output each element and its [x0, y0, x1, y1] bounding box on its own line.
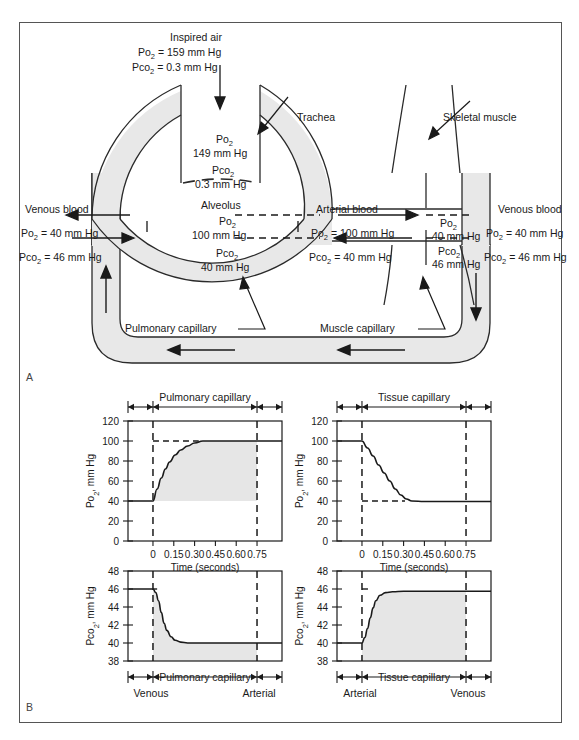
span-arrowhead: [337, 674, 343, 680]
span-annotation: Tissue capillaryArterialVenous: [337, 389, 491, 413]
chart-tissue-po2: 020406080100120Po2, mm Hg00.150.300.450.…: [294, 389, 491, 573]
span-arrowhead: [147, 674, 153, 680]
span-end-label-left: Arterial: [343, 389, 376, 391]
span-title: Tissue capillary: [378, 671, 451, 683]
span-arrowhead: [128, 674, 134, 680]
span-arrowhead: [485, 674, 491, 680]
y-tick-label: 120: [102, 416, 119, 427]
span-arrowhead: [147, 404, 153, 410]
venous-blood-left-label: Venous blood: [25, 203, 89, 215]
span-end-label-left: Arterial: [343, 687, 376, 699]
y-tick-label: 120: [311, 416, 328, 427]
y-tick-label: 100: [311, 436, 328, 447]
panel-b-charts: 020406080100120Po2, mm Hg00.150.300.450.…: [20, 389, 561, 723]
inspired-air-po2: Po2 = 159 mm Hg: [138, 46, 221, 61]
y-tick-label: 0: [113, 536, 119, 547]
chart-shaded-area: [153, 441, 257, 501]
y-tick-label: 60: [108, 476, 120, 487]
y-tick-label: 60: [317, 476, 329, 487]
span-arrowhead: [128, 404, 134, 410]
panel-b-svg: 020406080100120Po2, mm Hg00.150.300.450.…: [20, 389, 561, 723]
x-tick-label: 0.60: [435, 549, 455, 560]
venous-blood-right-pco2: Pco2 = 46 mm Hg: [484, 251, 567, 266]
panel-a-diagram: [20, 23, 561, 383]
arterial-blood-label: Arterial blood: [316, 203, 378, 215]
y-tick-label: 48: [108, 566, 120, 577]
y-tick-label: 48: [317, 566, 329, 577]
panel-a-label: A: [26, 371, 33, 383]
span-arrowhead: [362, 674, 368, 680]
x-tick-label: 0: [150, 549, 156, 560]
y-tick-label: 40: [108, 638, 120, 649]
svg-text:Pco2, mm Hg: Pco2, mm Hg: [294, 586, 310, 645]
venous-blood-left-po2: Po2 = 40 mm Hg: [21, 227, 98, 242]
span-arrowhead: [485, 404, 491, 410]
span-arrowhead: [466, 404, 472, 410]
span-arrowhead: [356, 404, 362, 410]
chart-shaded-area: [362, 591, 466, 661]
span-end-label-right: Arterial: [242, 687, 275, 699]
span-title: Pulmonary capillary: [159, 391, 251, 403]
x-tick-label: 0: [359, 549, 365, 560]
figure-canvas: Inspired air Po2 = 159 mm Hg Pco2 = 0.3 …: [0, 0, 579, 740]
y-tick-label: 44: [108, 602, 120, 613]
x-tick-label: 0.45: [206, 549, 226, 560]
span-end-label-left: Venous: [133, 389, 168, 391]
span-arrowhead: [460, 674, 466, 680]
chart-pulmonary-pco2: 384042444648Pco2, mm HgPulmonary capilla…: [85, 566, 282, 700]
x-tick-label: 0.75: [247, 549, 267, 560]
inspired-air-title: Inspired air: [170, 31, 222, 43]
span-arrowhead: [276, 674, 282, 680]
x-tick-label: 0.15: [373, 549, 393, 560]
span-end-label-right: Venous: [451, 687, 486, 699]
chart-frame: [337, 421, 491, 541]
span-arrowhead: [257, 404, 263, 410]
span-arrowhead: [251, 404, 257, 410]
y-tick-label: 38: [108, 656, 120, 667]
x-tick-label: 0.30: [185, 549, 205, 560]
span-arrowhead: [356, 674, 362, 680]
y-tick-label: 40: [317, 638, 329, 649]
span-arrowhead: [251, 674, 257, 680]
y-axis-label: Pco2, mm Hg: [294, 586, 310, 645]
trachea-pco2-value: 0.3 mm Hg: [195, 178, 246, 190]
y-tick-label: 42: [317, 620, 329, 631]
span-arrowhead: [153, 404, 159, 410]
y-tick-label: 40: [317, 496, 329, 507]
alveolar-po2-value: 100 mm Hg: [192, 229, 246, 241]
span-arrowhead: [466, 674, 472, 680]
y-tick-label: 46: [108, 584, 120, 595]
svg-text:Po2, mm Hg: Po2, mm Hg: [85, 454, 101, 508]
alveolar-pco2: Pco2: [216, 247, 238, 262]
span-annotation: Pulmonary capillaryVenousArterial: [128, 389, 282, 413]
figure-frame: Inspired air Po2 = 159 mm Hg Pco2 = 0.3 …: [19, 22, 562, 723]
x-tick-label: 0.30: [394, 549, 414, 560]
skeletal-muscle-label: Skeletal muscle: [443, 111, 517, 123]
data-curve: [337, 441, 491, 502]
y-tick-label: 46: [317, 584, 329, 595]
span-arrowhead: [337, 404, 343, 410]
alveolar-po2: Po2: [219, 215, 236, 230]
y-tick-label: 100: [102, 436, 119, 447]
span-end-label-left: Venous: [133, 687, 168, 699]
venous-blood-right-label: Venous blood: [498, 203, 562, 215]
span-arrowhead: [257, 674, 263, 680]
y-tick-label: 20: [317, 516, 329, 527]
span-arrowhead: [362, 404, 368, 410]
arterial-blood-po2: Po2 = 100 mm Hg: [311, 227, 394, 242]
data-curve: [128, 589, 282, 643]
y-axis-label: Po2, mm Hg: [294, 454, 310, 508]
chart-tissue-pco2: 384042444648Pco2, mm HgTissue capillaryA…: [294, 566, 491, 700]
svg-text:Po2, mm Hg: Po2, mm Hg: [294, 454, 310, 508]
span-annotation: Pulmonary capillaryVenousArterial: [128, 671, 282, 699]
trachea-pco2: Pco2: [212, 164, 234, 179]
y-axis-label: Pco2, mm Hg: [85, 586, 101, 645]
y-tick-label: 44: [317, 602, 329, 613]
venous-blood-right-po2: Po2 = 40 mm Hg: [486, 227, 563, 242]
chart-shaded-area: [153, 589, 257, 661]
trachea-label: Trachea: [297, 111, 335, 123]
span-annotation: Tissue capillaryArterialVenous: [337, 671, 491, 699]
span-end-label-right: Arterial: [242, 389, 275, 391]
x-tick-label: 0.60: [226, 549, 246, 560]
span-end-label-right: Venous: [451, 389, 486, 391]
